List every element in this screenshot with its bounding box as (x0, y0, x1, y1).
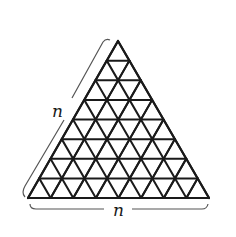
grid-line-diagonal-right (39, 178, 50, 198)
bottom-bracket-left (30, 204, 104, 209)
grid-line-diagonal-right (84, 100, 141, 198)
grid-line-diagonal-left (186, 178, 197, 198)
left-side-label: n (52, 103, 63, 120)
grid-line-diagonal-left (96, 100, 152, 198)
triangular-grid-diagram: n n (0, 0, 236, 237)
bottom-bracket-right (132, 204, 208, 209)
bottom-side-label: n (113, 202, 124, 219)
